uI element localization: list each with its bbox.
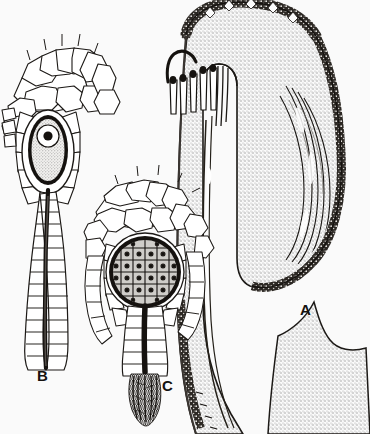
figure-b-lateral-cells (2, 108, 16, 147)
figure-c-stalk-core (144, 306, 145, 372)
illustration-plate: A (0, 0, 370, 434)
figure-c-stalk (122, 306, 168, 376)
figure-b-label: B (37, 367, 48, 384)
figure-c-label: C (162, 377, 173, 394)
figure-b-nucleolus (43, 131, 52, 140)
figure-a-label: A (300, 301, 311, 318)
